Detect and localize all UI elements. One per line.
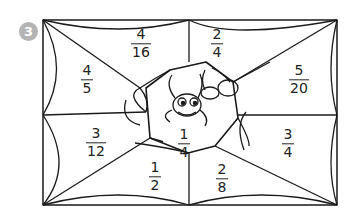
denominator: 12 bbox=[86, 145, 106, 160]
numerator: 4 bbox=[136, 27, 147, 42]
denominator: 16 bbox=[131, 46, 151, 61]
denominator: 2 bbox=[150, 179, 161, 194]
spider-web-illustration bbox=[0, 0, 353, 217]
fraction-lower-left: 3 12 bbox=[86, 126, 106, 159]
denominator: 8 bbox=[217, 181, 228, 196]
fraction-top-right: 2 4 bbox=[211, 27, 223, 60]
denominator: 20 bbox=[289, 82, 309, 97]
denominator: 5 bbox=[82, 82, 93, 97]
numerator: 4 bbox=[82, 63, 93, 78]
fraction-top-left: 4 16 bbox=[131, 27, 151, 60]
fraction-center: 1 4 bbox=[178, 127, 190, 160]
denominator: 4 bbox=[212, 46, 223, 61]
numerator: 3 bbox=[91, 126, 102, 141]
numerator: 2 bbox=[217, 162, 228, 177]
numerator: 1 bbox=[179, 127, 190, 142]
denominator: 4 bbox=[283, 146, 294, 161]
fraction-lower-right: 3 4 bbox=[282, 127, 294, 160]
fraction-bottom-left: 1 2 bbox=[149, 160, 161, 193]
fraction-left: 4 5 bbox=[81, 63, 93, 96]
fraction-right: 5 20 bbox=[289, 63, 309, 96]
numerator: 3 bbox=[283, 127, 294, 142]
numerator: 2 bbox=[212, 27, 223, 42]
numerator: 1 bbox=[150, 160, 161, 175]
numerator: 5 bbox=[294, 63, 305, 78]
fraction-bottom-right: 2 8 bbox=[216, 162, 228, 195]
denominator: 4 bbox=[179, 146, 190, 161]
